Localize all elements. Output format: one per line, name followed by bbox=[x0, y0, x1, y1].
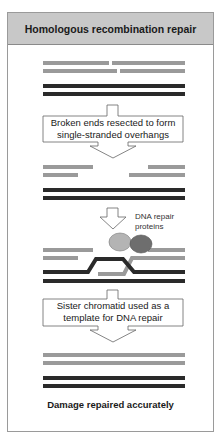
annotation-line2: proteins bbox=[135, 222, 174, 232]
step1-line2: single-stranded overhangs bbox=[43, 129, 183, 141]
footer-caption: Damage repaired accurately bbox=[7, 399, 214, 411]
step2-line1: Sister chromatid used as a bbox=[43, 300, 183, 312]
step1-caption: Broken ends resected to form single-stra… bbox=[43, 117, 183, 141]
repaired-dna-stage4 bbox=[43, 353, 185, 388]
repair-proteins-label: DNA repair proteins bbox=[135, 212, 174, 232]
repair-protein-dark bbox=[130, 235, 152, 253]
resected-dna-stage2 bbox=[43, 165, 185, 177]
broken-dna-stage1 bbox=[43, 61, 185, 73]
repair-protein-light bbox=[109, 233, 131, 251]
sister-chromatid-stage1 bbox=[43, 84, 185, 96]
annotation-line1: DNA repair bbox=[135, 212, 174, 222]
step2-caption: Sister chromatid used as a template for … bbox=[43, 300, 183, 324]
step2-line2: template for DNA repair bbox=[43, 312, 183, 324]
arrow-down-2 bbox=[100, 208, 126, 229]
sister-chromatid-stage2 bbox=[43, 188, 185, 200]
strand-invasion-stage3 bbox=[43, 233, 185, 283]
step1-line1: Broken ends resected to form bbox=[43, 117, 183, 129]
